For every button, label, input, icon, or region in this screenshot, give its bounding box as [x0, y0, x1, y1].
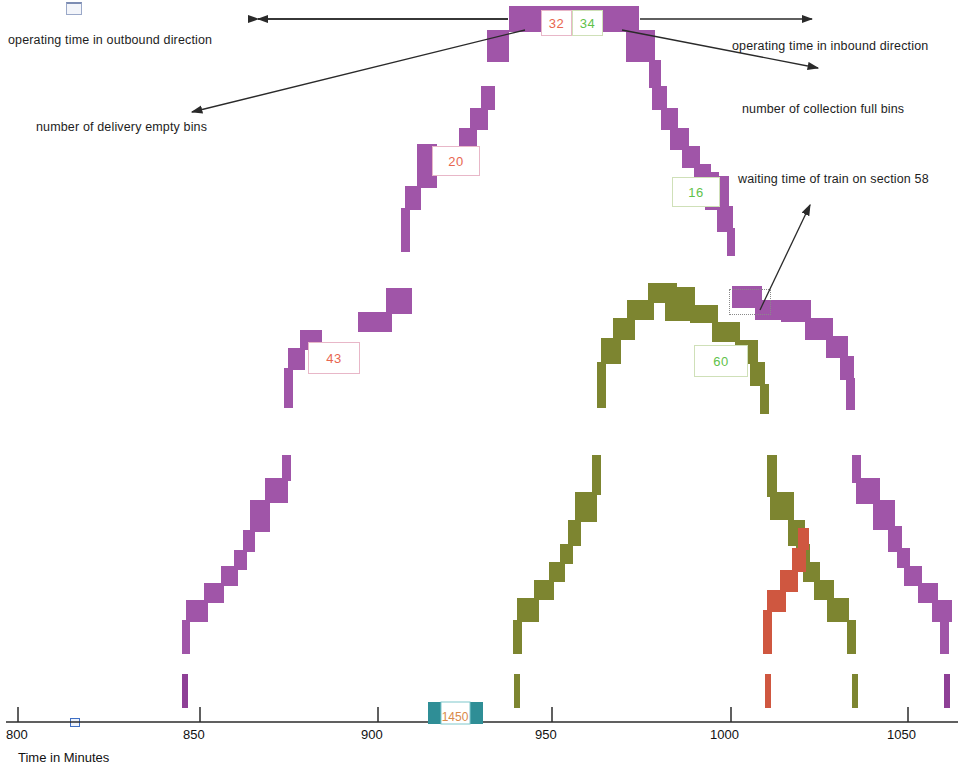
operating-outbound-value: 32 — [549, 16, 564, 31]
highlight-window[interactable]: 1450 — [428, 702, 483, 724]
inbound-time-value-box: 60 — [694, 345, 748, 377]
annotation-outbound-operating-time: operating time in outbound direction — [8, 33, 212, 48]
highlight-window-label: 1450 — [442, 710, 469, 724]
annotation-collection-full-bins: number of collection full bins — [742, 102, 904, 117]
axis-tick-1050: 1050 — [887, 727, 916, 742]
outbound-time-value: 43 — [326, 351, 341, 366]
axis-tick-800: 800 — [6, 727, 28, 742]
axis-tick-1000: 1000 — [710, 727, 739, 742]
inbound-time-value: 60 — [713, 354, 728, 369]
annotation-waiting-time-section: waiting time of train on section 58 — [738, 172, 948, 187]
annotation-arrows — [192, 19, 818, 310]
diagram-canvas: 1450 32 34 20 16 43 60 opera — [0, 0, 958, 765]
axis-tick-900: 900 — [361, 727, 383, 742]
x-axis-caption: Time in Minutes — [18, 750, 109, 765]
outbound-time-value-box: 43 — [308, 342, 360, 374]
operating-inbound-value-box: 34 — [572, 10, 603, 36]
delivery-bins-value: 20 — [448, 154, 463, 169]
operating-inbound-value: 34 — [580, 16, 595, 31]
axis-tick-850: 850 — [183, 727, 205, 742]
annotation-inbound-operating-time: operating time in inbound direction — [732, 39, 928, 54]
collection-bins-value: 16 — [688, 185, 703, 200]
waiting-time-dotted-box — [729, 289, 771, 315]
axis-tick-950: 950 — [535, 727, 557, 742]
collection-bins-value-box: 16 — [672, 177, 720, 207]
axis-markers — [182, 674, 950, 708]
operating-outbound-value-box: 32 — [541, 10, 572, 36]
series-waiting-red — [763, 528, 809, 654]
series-inbound-olive — [513, 283, 856, 654]
delivery-bins-value-box: 20 — [432, 146, 480, 176]
annotation-delivery-empty-bins: number of delivery empty bins — [36, 120, 207, 135]
